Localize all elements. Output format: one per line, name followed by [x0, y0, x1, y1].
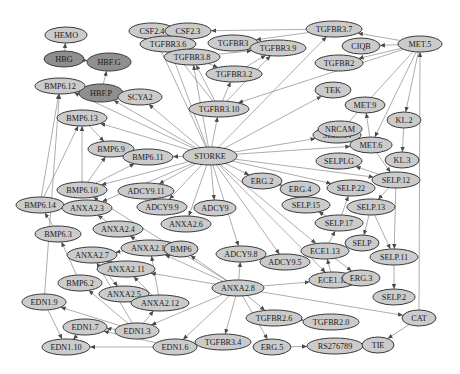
node-selp[interactable]: SELP [345, 235, 379, 251]
node-kl-2[interactable]: KL.2 [387, 112, 421, 128]
node-label: TGFBR3.9 [260, 44, 297, 53]
node-selp-22[interactable]: SELP.22 [327, 180, 375, 196]
edge-selp-12-to-selp-13 [378, 188, 389, 200]
node-anxa2-6[interactable]: ANXA2.6 [161, 216, 211, 232]
node-label: ANXA2.4 [101, 225, 135, 234]
node-selplg[interactable]: SELPLG [316, 153, 362, 169]
node-bmp6[interactable]: BMP6 [164, 241, 198, 257]
node-c1qb[interactable]: CIQB [342, 38, 380, 54]
node-erg-5[interactable]: ERG.5 [253, 339, 291, 355]
edge-kl-2-to-kl-3 [402, 128, 403, 152]
node-bmp6-13[interactable]: BMP6.13 [57, 110, 107, 126]
node-adcy9-9[interactable]: ADCY9.9 [137, 199, 187, 215]
node-label: KL.3 [393, 156, 410, 165]
node-rs276789[interactable]: RS276789 [307, 338, 363, 354]
edge-edn1-7-to-edn1-10 [73, 335, 78, 340]
node-tie[interactable]: TIE [362, 337, 394, 353]
node-label: TIE [372, 341, 385, 350]
node-tgfbr3-8[interactable]: TGFBR3.8 [164, 49, 220, 65]
node-anxa2-8[interactable]: ANXA2.8 [212, 280, 264, 296]
node-hbf-g[interactable]: HBF.G [87, 53, 131, 71]
edge-met-6-to-met-9 [366, 113, 370, 137]
node-adcy9[interactable]: ADCY9 [194, 200, 236, 216]
node-bmp6-12[interactable]: BMP6.12 [35, 78, 85, 94]
node-ece1-13[interactable]: ECE1.13 [301, 243, 349, 259]
node-label: SELP [352, 239, 372, 248]
node-selp-17[interactable]: SELP.17 [315, 215, 363, 231]
node-label: SELP.13 [357, 203, 385, 212]
node-bmp6-10[interactable]: BMP6.10 [57, 182, 107, 198]
node-label: STORKE [194, 152, 226, 161]
edge-storke-to-tgfbr3-6 [171, 52, 207, 147]
node-hbg[interactable]: HBG [44, 51, 84, 67]
network-graph: HEMOHBGHBF.GHBF.PCSF2.4CSF2.3TGFBR3.7MET… [0, 0, 460, 374]
edge-storke-to-adcy9 [211, 165, 214, 200]
node-selp-2[interactable]: SELP.2 [373, 289, 415, 305]
node-selp-11[interactable]: SELP.11 [370, 249, 418, 265]
node-cat[interactable]: CAT [402, 310, 436, 326]
edge-storke-to-selp-14 [234, 139, 315, 152]
node-anxa2-3[interactable]: ANXA2.3 [62, 200, 112, 216]
node-edn1-10[interactable]: EDN1.10 [42, 339, 90, 355]
node-tgfbr2-6[interactable]: TGFBR2.6 [246, 310, 302, 326]
edge-anxa2-13-to-anxa2-4 [130, 236, 138, 241]
node-tgfbr3-10[interactable]: TGFBR3.10 [189, 101, 249, 117]
node-label: ERG.2 [251, 177, 274, 186]
node-tgfbr2-0[interactable]: TGFBR2.0 [303, 314, 359, 330]
node-label: ADCY9.5 [268, 258, 301, 267]
node-adcy9-8[interactable]: ADCY9.8 [216, 246, 266, 262]
node-layer: HEMOHBGHBF.GHBF.PCSF2.4CSF2.3TGFBR3.7MET… [16, 21, 442, 355]
node-adcy9-5[interactable]: ADCY9.5 [260, 254, 310, 270]
node-label: BMP6.12 [44, 82, 76, 91]
edge-hbf-p-to-hbf-g [103, 71, 106, 84]
node-erg-3[interactable]: ERG.3 [342, 270, 380, 286]
node-scya2[interactable]: SCYA2 [118, 89, 162, 105]
node-bmp6-2[interactable]: BMP6.2 [58, 275, 102, 291]
node-kl-3[interactable]: KL.3 [385, 152, 419, 168]
node-bmp6-3[interactable]: BMP6.3 [35, 226, 81, 242]
node-hemo[interactable]: HEMO [45, 27, 87, 43]
node-edn1-3[interactable]: EDN1.3 [115, 323, 159, 339]
node-selp-15[interactable]: SELP.15 [282, 197, 330, 213]
node-edn1-6[interactable]: EDN1.6 [153, 339, 197, 355]
node-erg-2[interactable]: ERG.2 [242, 173, 282, 189]
node-anxa2-11[interactable]: ANXA2.11 [97, 261, 155, 277]
node-tgfbr3-7[interactable]: TGFBR3.7 [306, 21, 362, 37]
node-met-5[interactable]: MET.5 [398, 36, 442, 52]
edge-storke-to-tgfbr3-10 [212, 117, 218, 147]
node-bmp6-11[interactable]: BMP6.11 [123, 149, 173, 165]
node-edn1-9[interactable]: EDN1.9 [22, 294, 66, 310]
edge-anxa2-8-to-edn1-6 [183, 296, 230, 340]
node-selp-13[interactable]: SELP.13 [347, 199, 395, 215]
node-tek[interactable]: TEK [315, 82, 351, 98]
edge-met-5-to-c1qb [380, 45, 398, 46]
edge-hbg-to-hemo [65, 43, 66, 51]
node-met-6[interactable]: MET.6 [350, 137, 392, 153]
node-tgfbr3-2[interactable]: TGFBR3.2 [206, 66, 262, 82]
node-edn1-7[interactable]: EDN1.7 [63, 319, 107, 335]
node-erg-4[interactable]: ERG.4 [280, 181, 320, 197]
node-label: CAT [411, 314, 426, 323]
edge-storke-to-adcy9-11 [159, 164, 196, 184]
node-selp-12[interactable]: SELP.12 [372, 172, 420, 188]
node-anxa2-12[interactable]: ANXA2.12 [131, 295, 189, 311]
node-label: ANXA2.3 [70, 204, 104, 213]
node-met-9[interactable]: MET.9 [345, 97, 385, 113]
node-bmp6-14[interactable]: BMP6.14 [16, 197, 64, 213]
node-anxa2-7[interactable]: ANXA2.7 [67, 247, 117, 263]
node-label: CSF2.3 [176, 27, 201, 36]
node-tgfbr3-4[interactable]: TGFBR3.4 [195, 334, 251, 350]
node-label: CIQB [351, 42, 371, 51]
node-nrcam[interactable]: NRCAM [318, 121, 362, 137]
node-anxa2-4[interactable]: ANXA2.4 [93, 221, 143, 237]
edge-ece1-13-to-selp-17 [329, 231, 335, 243]
node-tgfbr3-9[interactable]: TGFBR3.9 [250, 40, 306, 56]
node-label: TGFBR2 [324, 59, 354, 68]
node-label: CSF2.4 [140, 27, 165, 36]
node-storke[interactable]: STORKE [183, 147, 237, 165]
node-label: BMP6 [170, 245, 191, 254]
node-adcy9-11[interactable]: ADCY9.11 [118, 183, 174, 199]
node-tgfbr2[interactable]: TGFBR2 [315, 55, 363, 71]
edge-selp-13-to-selp [364, 215, 369, 235]
node-hbf-p[interactable]: HBF.P [79, 84, 123, 102]
